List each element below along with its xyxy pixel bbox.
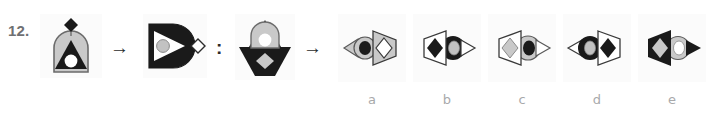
option-e-label: e (638, 92, 706, 107)
stem-figure-1 (40, 14, 102, 78)
circle-inner-black (359, 41, 371, 55)
circle-inner-grey (585, 41, 596, 55)
option-c[interactable] (488, 14, 556, 82)
arrow-icon-2: → (303, 38, 322, 57)
stem-figure-3 (235, 14, 295, 80)
option-b[interactable] (413, 14, 481, 82)
stem-figure-2 (143, 14, 207, 78)
arrow-icon-1: → (110, 38, 129, 57)
option-a[interactable] (338, 14, 406, 82)
circle-inner-black (523, 41, 535, 56)
puzzle-row: 12. → : (0, 0, 706, 117)
triangle-outline-right (536, 40, 550, 56)
triangle-black-right (686, 40, 701, 56)
circle-white (259, 34, 272, 47)
option-d-label: d (563, 92, 631, 107)
option-b-label: b (413, 92, 481, 107)
circle-grey (157, 40, 170, 53)
circle-white (65, 55, 78, 68)
triangle-white-right (461, 40, 475, 56)
question-number: 12. (8, 22, 29, 39)
analogy-colon: : (216, 38, 222, 57)
option-e[interactable] (638, 14, 706, 82)
circle-inner-white (674, 41, 685, 55)
option-d[interactable] (563, 14, 631, 82)
diamond-black (64, 18, 78, 32)
option-c-label: c (488, 92, 556, 107)
circle-inner-grey (449, 41, 460, 55)
option-a-label: a (338, 92, 406, 107)
